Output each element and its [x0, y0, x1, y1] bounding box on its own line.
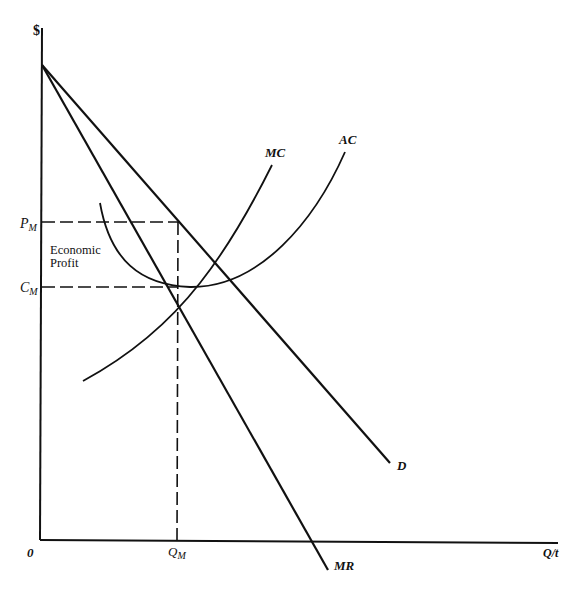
x-axis [40, 540, 558, 543]
demand-label: D [396, 458, 407, 473]
x-axis-label: Q/t [543, 546, 559, 560]
cost-marker-label: CM [20, 280, 38, 297]
marginal-cost-label: MC [264, 145, 286, 160]
economic-profit-label-line2: Profit [50, 256, 79, 270]
demand-curve [42, 65, 390, 463]
quantity-marker-label: QM [168, 544, 186, 561]
economic-profit-label-line1: Economic [50, 243, 101, 257]
monopoly-diagram: $ 0 Q/t D MR MC AC PM CM QM Economic Pro… [0, 0, 581, 591]
marginal-revenue-label: MR [333, 558, 355, 573]
price-marker-label: PM [19, 216, 38, 233]
quantity-dashed-line [177, 222, 178, 541]
average-cost-label: AC [338, 132, 357, 147]
marginal-revenue-curve [42, 65, 328, 570]
y-axis-label: $ [33, 23, 40, 38]
y-axis [40, 28, 42, 540]
origin-label: 0 [27, 545, 34, 560]
